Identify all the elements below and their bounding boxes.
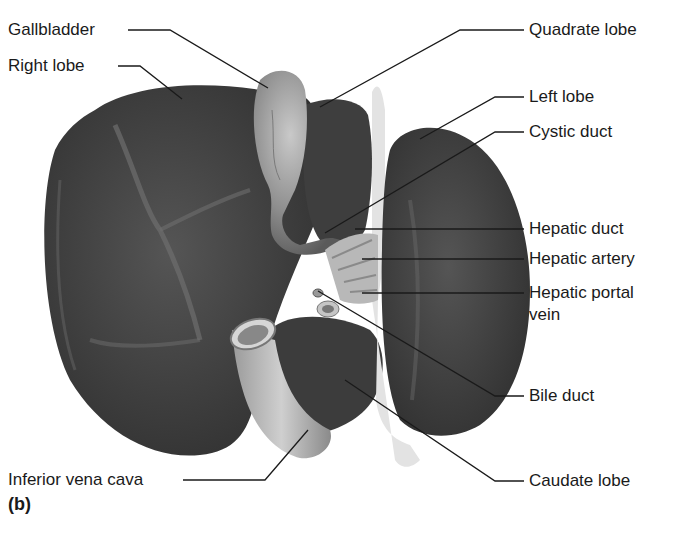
- label-gallbladder: Gallbladder: [8, 20, 95, 40]
- leader-gallbladder: [128, 30, 268, 88]
- label-caudate-lobe: Caudate lobe: [529, 471, 630, 491]
- label-hepatic-duct: Hepatic duct: [529, 219, 624, 239]
- panel-letter: (b): [8, 494, 31, 515]
- label-left-lobe: Left lobe: [529, 87, 594, 107]
- label-hepatic-portal-vein-line2: vein: [529, 305, 560, 325]
- label-right-lobe: Right lobe: [8, 56, 85, 76]
- label-bile-duct: Bile duct: [529, 386, 594, 406]
- leader-quadrate-lobe: [320, 30, 524, 107]
- label-inferior-vena-cava: Inferior vena cava: [8, 470, 143, 490]
- label-hepatic-artery: Hepatic artery: [529, 249, 635, 269]
- liver-diagram: Gallbladder Right lobe Inferior vena cav…: [0, 0, 691, 533]
- quadrate-lobe-shape: [303, 99, 372, 246]
- left-lobe-shape: [382, 128, 530, 436]
- label-quadrate-lobe: Quadrate lobe: [529, 20, 637, 40]
- label-hepatic-portal-vein-line1: Hepatic portal: [529, 283, 634, 303]
- label-cystic-duct: Cystic duct: [529, 122, 612, 142]
